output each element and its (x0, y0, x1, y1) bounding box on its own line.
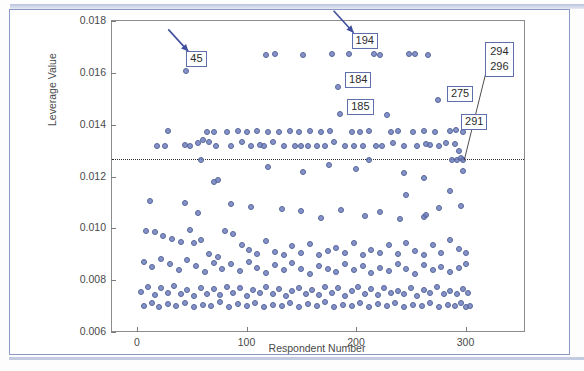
data-point (165, 290, 171, 296)
data-point (458, 203, 464, 209)
data-point (456, 148, 462, 154)
data-point (388, 129, 394, 135)
data-point (419, 303, 425, 309)
data-point (360, 252, 366, 258)
data-point (198, 157, 204, 163)
data-point (430, 242, 436, 248)
data-point (244, 293, 250, 299)
y-tick-0.018: 0.018 (62, 14, 106, 26)
data-point (246, 259, 252, 265)
y-tick-0.008: 0.008 (62, 273, 106, 285)
data-point (303, 291, 309, 297)
data-point (187, 143, 193, 149)
data-point (395, 288, 401, 294)
x-tick-mark (137, 327, 138, 332)
y-tick-mark (111, 73, 116, 74)
data-point (421, 252, 427, 258)
data-point (465, 290, 471, 296)
data-point (292, 143, 298, 149)
data-point (183, 68, 189, 74)
data-point (454, 291, 460, 297)
data-point (338, 207, 344, 213)
data-point (279, 206, 285, 212)
data-point (165, 301, 171, 307)
data-point (360, 143, 366, 149)
data-point (305, 143, 311, 149)
y-tick-mark (111, 125, 116, 126)
data-point (432, 129, 438, 135)
annotation-label-45: 45 (186, 51, 206, 67)
data-point (430, 267, 436, 273)
y-tick-mark (111, 177, 116, 178)
data-point (244, 129, 250, 135)
scatter-plot: Leverage Value Respondent Number 0.0060.… (0, 0, 584, 371)
x-tick-200: 200 (336, 336, 376, 348)
data-point (403, 240, 409, 246)
data-point (316, 292, 322, 298)
data-point (261, 143, 267, 149)
data-point (349, 303, 355, 309)
data-point (224, 129, 230, 135)
data-point (425, 52, 431, 58)
data-point (377, 250, 383, 256)
data-point (226, 304, 232, 310)
annotation-label-275: 275 (447, 86, 473, 102)
data-point (244, 303, 250, 309)
data-point (211, 129, 217, 135)
data-point (410, 302, 416, 308)
data-point (307, 241, 313, 247)
data-point (351, 143, 357, 149)
data-point (248, 143, 254, 149)
data-point (167, 261, 173, 267)
data-point (141, 303, 147, 309)
data-point (349, 288, 355, 294)
data-point (270, 302, 276, 308)
data-point (314, 303, 320, 309)
data-point (395, 261, 401, 267)
data-point (314, 143, 320, 149)
data-point (318, 215, 324, 221)
annotation-line: 294 (490, 44, 508, 59)
x-tick-300: 300 (446, 336, 486, 348)
data-point (467, 303, 473, 309)
data-point (248, 204, 254, 210)
data-point (176, 267, 182, 273)
data-point (198, 285, 204, 291)
data-point (463, 250, 469, 256)
data-point (377, 52, 383, 58)
y-tick-0.010: 0.010 (62, 221, 106, 233)
data-point (193, 263, 199, 269)
y-tick-mark (111, 228, 116, 229)
data-point (421, 175, 427, 181)
data-point (325, 248, 331, 254)
data-point (178, 239, 184, 245)
data-point (143, 228, 149, 234)
data-point (447, 288, 453, 294)
data-point (187, 227, 193, 233)
data-point (368, 247, 374, 253)
data-point (235, 301, 241, 307)
y-tick-mark (111, 332, 116, 333)
data-point (296, 129, 302, 135)
data-point (230, 231, 236, 237)
data-point (305, 301, 311, 307)
y-tick-0.014: 0.014 (62, 118, 106, 130)
data-point (447, 188, 453, 194)
data-point (390, 140, 396, 146)
data-point (211, 286, 217, 292)
data-point (158, 256, 164, 262)
data-point (154, 143, 160, 149)
data-point (204, 291, 210, 297)
data-point (384, 112, 390, 118)
annotation-line: 296 (490, 59, 508, 74)
data-point (423, 212, 429, 218)
data-point (373, 143, 379, 149)
data-point (401, 170, 407, 176)
data-point (342, 293, 348, 299)
data-point (261, 304, 267, 310)
page-background: Leverage Value Respondent Number 0.0060.… (0, 0, 584, 371)
data-point (362, 213, 368, 219)
data-point (228, 201, 234, 207)
data-point (456, 246, 462, 252)
data-point (362, 291, 368, 297)
